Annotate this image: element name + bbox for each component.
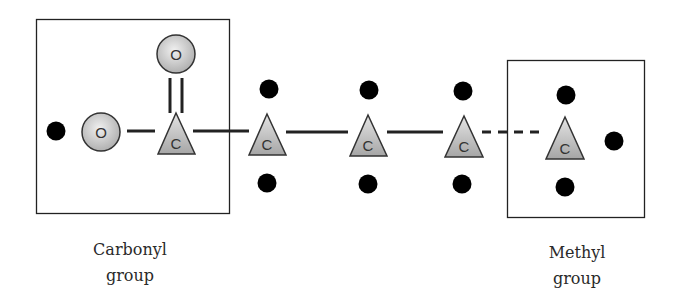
carbon-atom-3: C [350, 115, 387, 156]
carbon-atom-4: C [445, 116, 483, 157]
carbonyl-group-label: Carbonyl group [80, 237, 180, 289]
hydrogen-dot [47, 122, 66, 141]
methyl-label-line1: Methyl [527, 240, 627, 266]
svg-text:C: C [363, 137, 374, 154]
carbon-atom-2: C [249, 114, 286, 155]
carbon-atom-1: C [158, 113, 195, 154]
methyl-group-box [508, 61, 645, 218]
carbonyl-group-box [37, 20, 230, 214]
hydrogen-dot [605, 132, 624, 151]
hydrogen-dot [454, 82, 473, 101]
hydrogen-dot [557, 86, 576, 105]
hydrogen-dots [47, 80, 624, 197]
hydrogen-dot [258, 174, 277, 193]
svg-text:C: C [459, 138, 470, 155]
oxygen-atom-double: O [157, 35, 195, 73]
svg-text:C: C [171, 135, 182, 152]
carbonyl-label-line2: group [80, 263, 180, 289]
methyl-label-line2: group [527, 266, 627, 292]
carbon-atom-5: C [546, 117, 584, 159]
svg-text:C: C [262, 136, 273, 153]
hydrogen-dot [556, 178, 575, 197]
oxygen-atom-single: O [82, 113, 120, 151]
hydrogen-dot [359, 175, 378, 194]
svg-text:O: O [170, 46, 182, 63]
svg-text:C: C [560, 140, 571, 157]
methyl-group-label: Methyl group [527, 240, 627, 292]
carbonyl-label-line1: Carbonyl [80, 237, 180, 263]
hydrogen-dot [360, 81, 379, 100]
hydrogen-dot [453, 175, 472, 194]
bonds [127, 78, 541, 132]
hydrogen-dot [260, 80, 279, 99]
svg-text:O: O [95, 124, 107, 141]
